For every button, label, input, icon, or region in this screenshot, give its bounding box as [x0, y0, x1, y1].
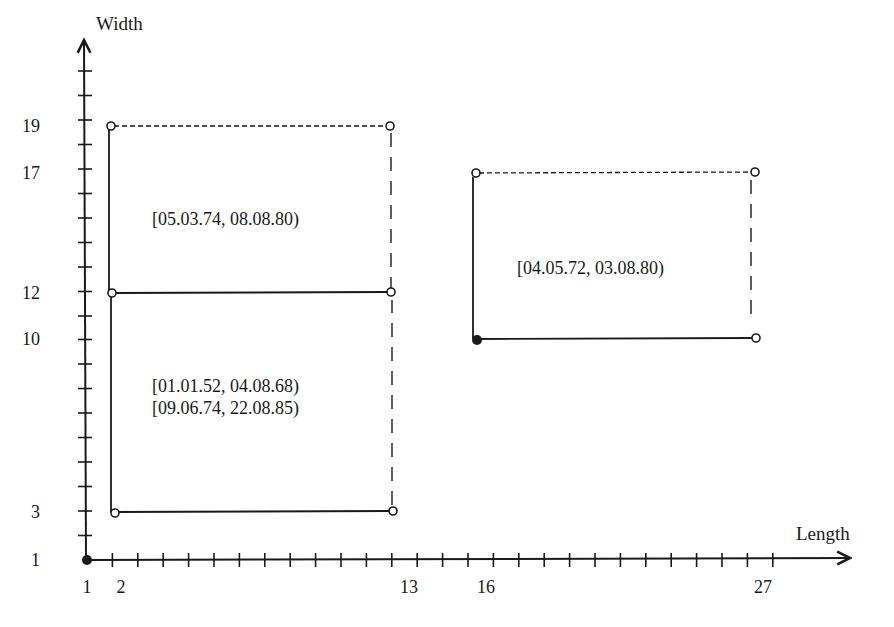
closed-point-icon	[472, 335, 482, 345]
region-upper-left-label: [05.03.74, 08.08.80)	[152, 208, 299, 230]
interval-label: [05.03.74, 08.08.80)	[152, 208, 299, 230]
y-tick-label-1: 1	[0, 551, 40, 569]
y-axis-label: Width	[96, 14, 143, 33]
interval-label: [04.05.72, 03.08.80)	[517, 257, 664, 279]
y-tick-label-12: 12	[0, 284, 40, 302]
y-tick-label-3: 3	[0, 503, 40, 521]
diagram-canvas	[0, 0, 894, 627]
x-tick-label-27: 27	[748, 578, 778, 596]
x-tick-label-16: 16	[471, 578, 501, 596]
open-point-icon	[472, 169, 480, 177]
open-point-icon	[108, 289, 116, 297]
interval-label: [01.01.52, 04.08.68)	[152, 375, 299, 397]
y-tick-label-17: 17	[0, 164, 40, 182]
y-tick-label-19: 19	[0, 117, 40, 135]
x-tick-label-13: 13	[394, 578, 424, 596]
interval-label: [09.06.74, 22.08.85)	[152, 397, 299, 419]
open-point-icon	[389, 507, 397, 515]
open-point-icon	[107, 122, 115, 130]
x-axis	[87, 553, 850, 567]
y-axis	[78, 40, 92, 560]
y-tick-label-10: 10	[0, 330, 40, 348]
origin-point-icon	[82, 555, 92, 565]
open-point-icon	[751, 168, 759, 176]
region-lower-left-label: [01.01.52, 04.08.68) [09.06.74, 22.08.85…	[152, 375, 299, 419]
open-point-icon	[386, 122, 394, 130]
x-tick-label-2: 2	[106, 578, 136, 596]
x-axis-label: Length	[796, 524, 850, 543]
x-tick-label-1: 1	[72, 578, 102, 596]
open-point-icon	[111, 509, 119, 517]
open-point-icon	[387, 288, 395, 296]
region-right-label: [04.05.72, 03.08.80)	[517, 257, 664, 279]
open-point-icon	[752, 334, 760, 342]
